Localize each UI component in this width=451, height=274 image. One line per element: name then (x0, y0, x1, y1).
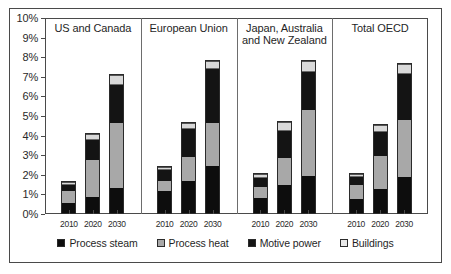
y-axis-tick-label: 7% (23, 71, 39, 83)
bar-segment-process-steam (278, 185, 291, 213)
bar-segment-motive-power (158, 169, 171, 181)
x-axis-tick-label: 2030 (299, 219, 317, 229)
bar-segment-process-heat (62, 191, 75, 203)
y-axis-tick-label: 1% (23, 188, 39, 200)
x-axis-tick (308, 210, 309, 214)
legend-swatch-icon (248, 239, 256, 247)
x-axis-tick (165, 210, 166, 214)
panel-divider (237, 18, 238, 214)
y-axis-tick-label: 5% (23, 110, 39, 122)
y-axis-tick-label: 9% (23, 32, 39, 44)
x-axis-tick-label: 2030 (108, 219, 126, 229)
y-axis-tick-label: 3% (23, 149, 39, 161)
y-axis-tick (41, 194, 45, 195)
y-axis-tick (41, 155, 45, 156)
bar-segment-process-heat (86, 160, 99, 197)
y-axis-tick (41, 38, 45, 39)
legend-swatch-icon (340, 239, 348, 247)
y-axis-labels: 0%1%2%3%4%5%6%7%8%9%10% (9, 18, 42, 214)
stacked-bar (85, 133, 100, 214)
bar-segment-motive-power (254, 177, 267, 187)
y-axis-tick (41, 214, 45, 215)
x-axis-tick (404, 210, 405, 214)
x-axis-tick-label: 2010 (252, 219, 270, 229)
y-axis-tick (41, 18, 45, 19)
legend-item[interactable]: Motive power (248, 237, 321, 249)
bar-segment-motive-power (62, 184, 75, 191)
bar-segment-process-heat (398, 120, 411, 177)
x-axis-tick-label: 2020 (180, 219, 198, 229)
y-axis-tick-label: 0% (23, 208, 39, 220)
bar-segment-buildings (206, 61, 219, 68)
stacked-bar (61, 181, 76, 214)
x-axis-tick (93, 210, 94, 214)
plot-area: 201020202030US and Canada201020202030Eur… (45, 18, 428, 214)
x-axis-tick (284, 210, 285, 214)
x-axis-tick-label: 2030 (395, 219, 413, 229)
bar-segment-buildings (110, 75, 123, 84)
y-axis-tick (41, 136, 45, 137)
panel-bars (45, 18, 141, 214)
stacked-bar (349, 173, 364, 214)
x-axis-tick (380, 210, 381, 214)
legend-item[interactable]: Process steam (57, 237, 137, 249)
y-axis-tick (41, 57, 45, 58)
panel-divider (141, 18, 142, 214)
legend-item[interactable]: Buildings (340, 237, 394, 249)
stacked-bar (109, 74, 124, 214)
bar-segment-process-heat (254, 187, 267, 198)
x-axis-tick-label: 2020 (276, 219, 294, 229)
x-axis-tick-label: 2010 (347, 219, 365, 229)
y-axis-tick-label: 10% (17, 12, 38, 24)
bar-segment-process-heat (206, 123, 219, 166)
panel-bars (237, 18, 333, 214)
legend-label: Buildings (352, 237, 394, 249)
bar-segment-process-steam (398, 177, 411, 213)
legend-label: Motive power (260, 237, 321, 249)
x-axis-tick (117, 210, 118, 214)
bar-segment-motive-power (302, 71, 315, 110)
x-axis-tick-label: 2020 (84, 219, 102, 229)
bar-segment-motive-power (86, 139, 99, 159)
bar-segment-motive-power (398, 73, 411, 120)
bar-segment-process-steam (206, 166, 219, 213)
x-axis-tick-label: 2010 (60, 219, 78, 229)
x-axis-tick (189, 210, 190, 214)
bar-segment-motive-power (182, 128, 195, 158)
panel-bars (141, 18, 237, 214)
y-axis-tick-label: 8% (23, 51, 39, 63)
bar-segment-process-heat (158, 181, 171, 191)
y-axis-tick (41, 175, 45, 176)
legend-swatch-icon (157, 239, 165, 247)
chart-panel: Japan, Australiaand New Zealand (237, 18, 333, 214)
x-axis-tick (260, 210, 261, 214)
stacked-bar (301, 60, 316, 214)
stacked-bar (277, 121, 292, 214)
bar-segment-buildings (398, 64, 411, 73)
y-axis-tick (41, 77, 45, 78)
y-axis-tick (41, 96, 45, 97)
legend-label: Process heat (169, 237, 229, 249)
legend-label: Process steam (69, 237, 137, 249)
bar-segment-process-heat (182, 157, 195, 181)
stacked-bar (253, 173, 268, 214)
y-axis-tick (41, 116, 45, 117)
stacked-bar (157, 166, 172, 214)
bar-segment-buildings (302, 61, 315, 71)
chart-panel: Total OECD (332, 18, 428, 214)
x-axis-tick (69, 210, 70, 214)
chart-panel: US and Canada (45, 18, 141, 214)
x-axis-tick-label: 2010 (156, 219, 174, 229)
legend-swatch-icon (57, 239, 65, 247)
bar-segment-process-steam (182, 181, 195, 213)
chart-legend: Process steamProcess heatMotive powerBui… (9, 237, 442, 249)
x-axis-tick (213, 210, 214, 214)
y-axis-tick-label: 4% (23, 130, 39, 142)
bar-segment-buildings (278, 122, 291, 130)
bar-segment-process-heat (302, 110, 315, 177)
chart-panel: European Union (141, 18, 237, 214)
stacked-bar (181, 122, 196, 214)
bar-segment-process-steam (302, 176, 315, 213)
legend-item[interactable]: Process heat (157, 237, 229, 249)
bar-segment-motive-power (278, 130, 291, 159)
